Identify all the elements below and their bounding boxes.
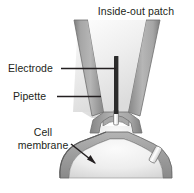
figure-title: Inside-out patch: [84, 5, 188, 17]
label-cell-membrane: Cell membrane: [6, 126, 80, 151]
label-pipette: Pipette: [13, 90, 46, 103]
inside-out-patch-figure: Inside-out patch Electrode Pipette Cell …: [0, 0, 194, 193]
label-cell-membrane-line2: membrane: [6, 139, 80, 152]
label-cell-membrane-line1: Cell: [6, 126, 80, 139]
electrode-bar: [114, 56, 118, 114]
label-electrode: Electrode: [8, 62, 53, 75]
